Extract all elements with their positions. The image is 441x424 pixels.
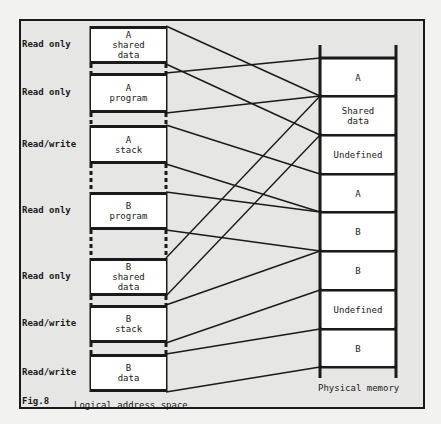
segment-label: B <box>126 201 131 211</box>
logical-segment: Aprogram <box>91 73 166 113</box>
permission-label: Read only <box>22 205 88 216</box>
block-label: A <box>355 73 360 83</box>
permission-label: Read/write <box>22 318 88 329</box>
physical-block: Undefined <box>322 292 394 328</box>
logical-segment: Bprogram <box>91 192 166 230</box>
block-label: Shared <box>342 106 375 116</box>
segment-label: A <box>126 135 131 145</box>
physical-block: Shareddata <box>322 98 394 134</box>
permission-label: Read only <box>22 271 88 282</box>
segment-label: A <box>126 30 131 40</box>
permission-label: Read only <box>22 39 88 50</box>
segment-label: data <box>118 373 140 383</box>
logical-segment: Bdata <box>91 354 166 392</box>
segment-label: B <box>126 314 131 324</box>
block-label: data <box>347 116 369 126</box>
segment-label: stack <box>115 324 142 334</box>
permission-label: Read/write <box>22 139 88 150</box>
segment-label: shared <box>112 40 145 50</box>
physical-block: A <box>322 176 394 211</box>
block-label: Undefined <box>334 305 383 315</box>
physical-block: B <box>322 253 394 289</box>
block-label: B <box>355 227 360 237</box>
logical-segment: Astack <box>91 125 166 164</box>
figure-label: Fig.8 <box>22 396 49 406</box>
physical-block: Undefined <box>322 137 394 173</box>
physical-block: B <box>322 331 394 366</box>
segment-label: A <box>126 83 131 93</box>
segment-label: data <box>118 282 140 292</box>
physical-memory-caption: Physical memory <box>318 383 399 393</box>
block-label: B <box>355 266 360 276</box>
logical-segment: Bshareddata <box>91 258 166 296</box>
segment-label: B <box>126 262 131 272</box>
permission-label: Read only <box>22 87 88 98</box>
block-label: B <box>355 344 360 354</box>
segment-label: shared <box>112 272 145 282</box>
segment-label: data <box>118 50 140 60</box>
logical-address-space-caption: Logical address space <box>74 400 188 410</box>
block-label: Undefined <box>334 150 383 160</box>
physical-block: B <box>322 214 394 250</box>
segment-label: program <box>110 211 148 221</box>
block-label: A <box>355 189 360 199</box>
segment-label: B <box>126 363 131 373</box>
segment-label: program <box>110 93 148 103</box>
segment-label: stack <box>115 145 142 155</box>
logical-segment: Bstack <box>91 305 166 343</box>
permission-label: Read/write <box>22 367 88 378</box>
logical-segment: Ashareddata <box>91 26 166 64</box>
physical-block: A <box>322 60 394 95</box>
